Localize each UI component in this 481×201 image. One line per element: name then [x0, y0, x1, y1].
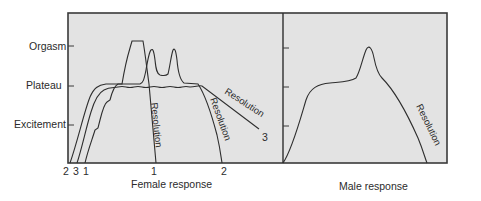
male-panel	[283, 13, 447, 163]
x-start-label-1: 1	[83, 165, 89, 177]
female-panel	[68, 13, 283, 163]
x-end-label-2: 2	[221, 165, 227, 177]
end-label-3: 3	[262, 131, 268, 143]
sexual-response-cycle-figure: Orgasm Plateau Excitement 2 3	[0, 0, 481, 201]
x-start-label-3: 3	[73, 165, 79, 177]
female-response-caption: Female response	[131, 178, 212, 190]
chart-svg: 2 3 1 1 2 3 Resolution Resolution Resolu…	[0, 0, 481, 201]
x-end-label-1: 1	[151, 165, 157, 177]
x-start-label-2: 2	[63, 165, 69, 177]
male-response-caption: Male response	[339, 180, 408, 192]
